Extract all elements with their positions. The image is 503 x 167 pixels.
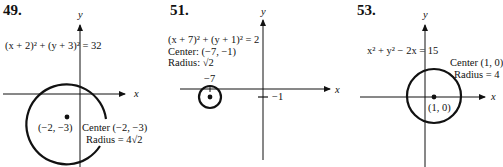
problem-number-49: 49.	[3, 2, 22, 19]
problem-number-51: 51.	[170, 2, 189, 19]
center-dot	[432, 95, 437, 100]
y-axis-label: y	[261, 6, 266, 18]
radius-text: Radius = 4	[454, 69, 500, 81]
tick-x-label: −7	[204, 73, 215, 85]
center-text: Center (−2, −3)	[82, 122, 147, 134]
x-axis-label: x	[335, 84, 340, 96]
y-axis-label: y	[78, 9, 83, 21]
center-dot	[65, 115, 70, 120]
tick-y-label: −1	[272, 91, 283, 103]
equation-51: (x + 7)² + (y + 1)² = 2	[168, 34, 259, 46]
center-text: Center (1, 0)	[450, 57, 503, 69]
center-point-label: (1, 0)	[428, 102, 451, 114]
equation-53: x² + y² − 2x = 15	[367, 45, 438, 57]
equation-49: (x + 2)² + (y + 3)² = 32	[5, 40, 101, 52]
center-dot	[208, 95, 213, 100]
center-point-label: (−2, −3)	[38, 122, 73, 134]
x-axis-label: x	[491, 91, 496, 103]
y-axis-label: y	[423, 9, 428, 21]
x-axis-label: x	[134, 88, 139, 100]
problem-number-53: 53.	[357, 2, 376, 19]
radius-text: Radius: √2	[168, 57, 214, 69]
radius-text: Radius = 4√2	[86, 134, 143, 146]
